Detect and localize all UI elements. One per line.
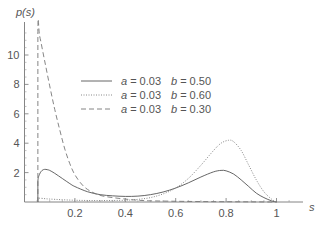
legend-label: a= 0.03b= 0.30 — [121, 103, 211, 115]
x-tick-label: 0.6 — [168, 207, 183, 219]
y-tick-label: 2 — [13, 167, 19, 179]
y-ticks: 246810 — [7, 49, 28, 179]
x-tick-label: 0.8 — [218, 207, 233, 219]
y-tick-label: 10 — [7, 49, 19, 61]
legend-item: a= 0.03b= 0.60 — [81, 89, 211, 101]
series-line-b060 — [38, 140, 277, 202]
x-tick-label: 0.2 — [67, 207, 82, 219]
legend-item: a= 0.03b= 0.50 — [81, 75, 211, 87]
series-line-b050 — [38, 169, 277, 202]
x-tick-label: 1 — [273, 207, 279, 219]
y-tick-label: 6 — [13, 108, 19, 120]
y-tick-label: 8 — [13, 78, 19, 90]
legend-label: a= 0.03b= 0.50 — [121, 75, 211, 87]
x-tick-label: 0.4 — [118, 207, 133, 219]
legend: a= 0.03b= 0.50 a= 0.03b= 0.60 a= 0.03b= … — [81, 75, 211, 115]
y-tick-label: 4 — [13, 137, 19, 149]
x-axis-title: s — [309, 201, 315, 213]
legend-item: a= 0.03b= 0.30 — [81, 103, 211, 115]
legend-label: a= 0.03b= 0.60 — [121, 89, 211, 101]
y-axis-title: p(s) — [15, 6, 35, 18]
chart: p(s) s 246810 0.20.40.60.81 a= 0.03b= 0.… — [0, 0, 322, 225]
